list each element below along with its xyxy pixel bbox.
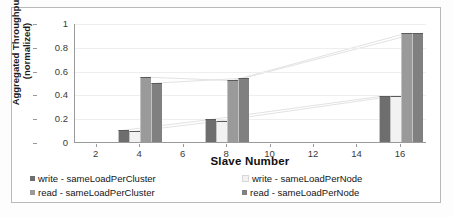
gridline bbox=[75, 48, 426, 49]
bar bbox=[390, 96, 401, 142]
bar bbox=[118, 130, 129, 142]
legend-item[interactable]: write - sameLoadPerCluster bbox=[30, 173, 242, 184]
y-tick-label: 0.6 bbox=[55, 67, 68, 77]
legend-item[interactable]: read - sameLoadPerNode bbox=[242, 187, 430, 198]
bar bbox=[129, 131, 140, 142]
gridline bbox=[75, 119, 426, 120]
x-tick-mark bbox=[96, 144, 97, 147]
trend-line bbox=[135, 96, 395, 131]
y-tick-label: 0 bbox=[63, 138, 68, 148]
x-axis-title: Slave Number bbox=[74, 155, 426, 167]
legend-label: read - sameLoadPerNode bbox=[250, 187, 359, 198]
legend-swatch-icon bbox=[30, 176, 35, 181]
chart-figure: Aggregated Throughput (normalized) 00.20… bbox=[0, 0, 453, 217]
legend-swatch-icon bbox=[242, 175, 249, 182]
legend-label: write - sameLoadPerNode bbox=[252, 173, 362, 184]
plot-wrapper bbox=[74, 24, 426, 143]
legend-label: write - sameLoadPerCluster bbox=[38, 173, 156, 184]
x-tick-mark bbox=[400, 144, 401, 147]
gridline bbox=[75, 95, 426, 96]
trend-line bbox=[124, 96, 384, 130]
y-tick-mark bbox=[33, 48, 37, 49]
bar bbox=[151, 83, 162, 143]
gridline bbox=[75, 72, 426, 73]
legend-swatch-icon bbox=[30, 190, 35, 195]
y-axis-title: Aggregated Throughput (normalized) bbox=[10, 0, 32, 116]
y-tick-label: 0.8 bbox=[55, 43, 68, 53]
trend-line bbox=[156, 33, 416, 83]
plot-area bbox=[74, 24, 426, 143]
bar bbox=[216, 121, 227, 142]
legend-label: read - sameLoadPerCluster bbox=[38, 187, 155, 198]
gridline bbox=[75, 24, 426, 25]
x-tick-mark bbox=[356, 144, 357, 147]
trend-lines bbox=[75, 24, 426, 142]
bar bbox=[401, 33, 412, 142]
trend-line bbox=[145, 33, 405, 80]
bar bbox=[412, 33, 423, 142]
y-tick-label: 0.2 bbox=[55, 114, 68, 124]
x-tick-mark bbox=[270, 144, 271, 147]
y-tick-mark bbox=[33, 95, 37, 96]
y-tick-label: 1 bbox=[63, 19, 68, 29]
x-tick-mark bbox=[313, 144, 314, 147]
legend-item[interactable]: write - sameLoadPerNode bbox=[242, 173, 430, 184]
y-tick-mark bbox=[33, 119, 37, 120]
y-tick-label: 0.4 bbox=[55, 90, 68, 100]
bar bbox=[205, 119, 216, 142]
bar bbox=[140, 77, 151, 142]
y-tick-mark bbox=[33, 143, 37, 144]
legend-swatch-icon bbox=[242, 190, 247, 195]
y-tick-mark bbox=[33, 72, 37, 73]
y-axis-ticks: 00.20.40.60.81 bbox=[38, 18, 72, 149]
x-tick-mark bbox=[183, 144, 184, 147]
bar bbox=[379, 96, 390, 142]
y-tick-mark bbox=[33, 24, 37, 25]
bar bbox=[227, 80, 238, 142]
x-tick-mark bbox=[139, 144, 140, 147]
bar bbox=[238, 78, 249, 142]
y-axis-title-line1: Aggregated Throughput bbox=[10, 0, 21, 105]
x-tick-mark bbox=[226, 144, 227, 147]
chart-legend: write - sameLoadPerClusterwrite - sameLo… bbox=[30, 171, 430, 199]
y-axis-title-line2: (normalized) bbox=[21, 23, 32, 79]
legend-item[interactable]: read - sameLoadPerCluster bbox=[30, 187, 242, 198]
